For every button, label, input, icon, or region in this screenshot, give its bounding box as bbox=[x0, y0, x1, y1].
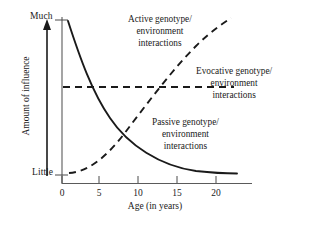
annotation-active-genotype: Active genotype/ environment interaction… bbox=[128, 14, 192, 49]
x-axis-ticks bbox=[62, 176, 216, 183]
annotation-passive-genotype: Passive genotype/ environment interactio… bbox=[152, 117, 219, 152]
annotation-passive-line-1: Passive genotype/ bbox=[152, 117, 219, 129]
influence-arrow-icon bbox=[43, 19, 51, 176]
annotation-evocative-line-2: environment bbox=[196, 78, 272, 90]
annotation-active-line-1: Active genotype/ bbox=[128, 14, 192, 26]
annotation-evocative-genotype: Evocative genotype/ environment interact… bbox=[196, 66, 272, 101]
annotation-active-line-2: environment bbox=[128, 26, 192, 38]
x-tick-label-10: 10 bbox=[126, 188, 150, 198]
annotation-passive-line-2: environment bbox=[152, 129, 219, 141]
annotation-evocative-line-1: Evocative genotype/ bbox=[196, 66, 272, 78]
x-tick-label-20: 20 bbox=[204, 188, 228, 198]
y-axis-bottom-label: Little bbox=[32, 167, 53, 179]
x-tick-label-15: 15 bbox=[165, 188, 189, 198]
annotation-evocative-line-3: interactions bbox=[196, 90, 272, 102]
y-axis-title: Amount of influence bbox=[21, 26, 31, 166]
x-axis-title: Age (in years) bbox=[95, 201, 215, 211]
genotype-environment-interactions-chart: Much Little Amount of influence 0 5 10 1… bbox=[0, 0, 319, 231]
x-tick-label-5: 5 bbox=[87, 188, 111, 198]
annotation-passive-line-3: interactions bbox=[152, 141, 219, 153]
annotation-active-line-3: interactions bbox=[128, 38, 192, 50]
y-axis-top-label: Much bbox=[30, 11, 53, 23]
x-tick-label-0: 0 bbox=[50, 188, 74, 198]
